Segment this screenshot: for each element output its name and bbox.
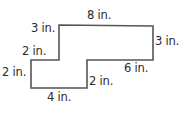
label-bottom-side: 4 in. xyxy=(47,92,71,104)
label-middle-left-side: 2 in. xyxy=(22,46,46,58)
label-lower-left-side: 2 in. xyxy=(2,67,26,79)
label-inner-vertical-side: 2 in. xyxy=(89,76,113,88)
label-right-side: 3 in. xyxy=(155,36,179,48)
label-middle-right-side: 6 in. xyxy=(124,63,148,75)
label-upper-left-side: 3 in. xyxy=(31,23,55,35)
label-top-side: 8 in. xyxy=(87,10,111,22)
